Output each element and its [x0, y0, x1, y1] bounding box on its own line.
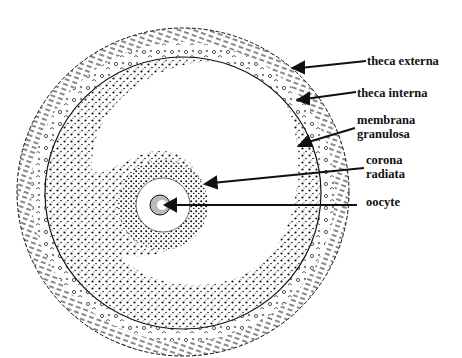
label-theca-externa: theca externa: [367, 54, 439, 68]
label-granulosa-line2: granulosa: [357, 127, 415, 141]
label-radiata-line2: radiata: [366, 167, 405, 181]
label-corona-line1: corona: [366, 153, 405, 167]
label-corona-radiata: corona radiata: [366, 153, 405, 181]
follicle-diagram: theca externa theca interna membrana gra…: [0, 0, 462, 358]
label-membrana-granulosa: membrana granulosa: [357, 113, 415, 141]
label-membrana-line1: membrana: [357, 113, 415, 127]
label-oocyte: oocyte: [366, 195, 400, 209]
label-theca-interna: theca interna: [357, 86, 427, 100]
